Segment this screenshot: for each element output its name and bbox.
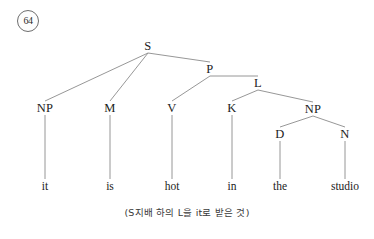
- figure-caption: (S지배 하의 L을 it로 받은 것): [0, 205, 374, 219]
- tree-node-np2: NP: [305, 102, 322, 117]
- tree-edge-L-K: [232, 90, 258, 101]
- tree-edge-NP2-N: [313, 116, 345, 127]
- syntax-tree-figure: 64 SNPMPVLKNPDN itishotinthestudio (S지배 …: [0, 0, 374, 239]
- tree-branch-lines: [0, 0, 374, 239]
- tree-leaf-it: it: [42, 180, 48, 192]
- tree-node-k: K: [227, 101, 236, 116]
- tree-leaf-hot: hot: [165, 180, 180, 192]
- tree-node-np1: NP: [37, 101, 54, 116]
- tree-edge-P-V: [172, 76, 210, 101]
- tree-node-n: N: [340, 127, 349, 142]
- tree-node-v: V: [167, 101, 176, 116]
- tree-edge-S-NP1: [45, 53, 148, 101]
- tree-node-d: D: [275, 127, 284, 142]
- tree-node-m: M: [104, 101, 115, 116]
- tree-edge-NP2-D: [280, 116, 313, 127]
- tree-edge-S-M: [110, 53, 148, 101]
- tree-leaf-in: in: [228, 180, 237, 192]
- tree-node-l: L: [254, 76, 262, 91]
- tree-leaf-the: the: [273, 180, 287, 192]
- tree-node-p: P: [206, 62, 213, 77]
- tree-leaf-is: is: [106, 180, 114, 192]
- tree-edge-L-NP2: [258, 90, 313, 102]
- tree-edge-S-P: [148, 53, 210, 62]
- tree-leaf-studio: studio: [331, 180, 359, 192]
- tree-node-s: S: [144, 39, 151, 54]
